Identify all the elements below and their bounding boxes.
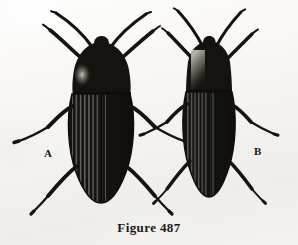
figure-caption: Figure 487: [0, 220, 298, 236]
beetle-illustration: [0, 0, 298, 245]
elytra-b: [183, 90, 238, 200]
specimen-label-b: B: [254, 145, 261, 157]
pronotum-highlight-a: [75, 59, 97, 89]
specimen-label-a: A: [44, 147, 52, 159]
specimen-a: [14, 11, 189, 214]
specimen-b: [140, 8, 278, 203]
elytra-a: [69, 92, 136, 206]
figure-plate: A B Figure 487: [0, 0, 298, 245]
pronotum-highlight-b: [191, 50, 205, 94]
